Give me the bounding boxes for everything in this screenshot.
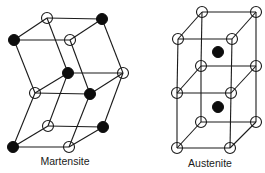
bond-line xyxy=(69,94,90,147)
bond-line xyxy=(230,93,231,148)
austenite-lattice: Austenite xyxy=(172,7,262,170)
filled-atom-icon xyxy=(213,102,224,113)
austenite-atoms xyxy=(172,7,262,154)
bond-line xyxy=(103,73,123,127)
filled-atom-icon xyxy=(8,142,19,153)
bond-line xyxy=(70,40,90,94)
austenite-label: Austenite xyxy=(188,157,232,169)
filled-atom-icon xyxy=(63,68,74,79)
martensite-lattice: Martensite xyxy=(8,13,129,168)
martensite-label: Martensite xyxy=(40,155,89,167)
bond-line xyxy=(14,40,35,93)
bond-line xyxy=(47,18,68,73)
bond-line xyxy=(177,39,178,93)
bond-line xyxy=(48,126,103,127)
austenite-bonds xyxy=(177,12,256,148)
bond-line xyxy=(231,39,232,93)
bond-line xyxy=(47,18,102,19)
filled-atom-icon xyxy=(213,47,224,58)
filled-atom-icon xyxy=(85,89,96,100)
filled-atom-icon xyxy=(98,122,109,133)
bond-line xyxy=(48,73,68,126)
bond-line xyxy=(102,19,123,73)
filled-atom-icon xyxy=(97,14,108,25)
martensite-atoms xyxy=(8,13,129,153)
bond-line xyxy=(13,126,48,147)
bond-line xyxy=(13,93,35,147)
bond-line xyxy=(35,93,90,94)
bond-line xyxy=(201,12,202,66)
filled-atom-icon xyxy=(9,35,20,46)
crystal-structure-diagram: Martensite Austenite xyxy=(0,0,265,173)
